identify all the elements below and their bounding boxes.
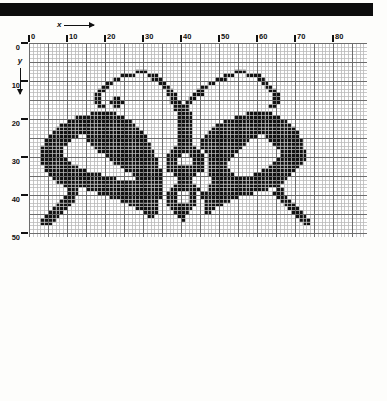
x-axis-annotation: x: [57, 19, 94, 30]
x-tick-label: 10: [69, 33, 77, 41]
y-tick-mark: [21, 118, 28, 120]
y-tick-mark: [21, 232, 28, 234]
x-tick-label: 80: [335, 33, 343, 41]
x-tick-label: 60: [259, 33, 267, 41]
y-tick-label: 30: [7, 158, 20, 166]
y-tick-mark: [21, 194, 28, 196]
y-tick-mark: [21, 80, 28, 82]
y-tick-mark: [21, 156, 28, 158]
x-tick-label: 70: [297, 33, 305, 41]
x-tick-mark: [66, 35, 68, 42]
stitch-grid-canvas: [29, 43, 367, 237]
stitch-grid: [29, 43, 367, 237]
x-tick-label: 50: [221, 33, 229, 41]
y-tick-label: 20: [7, 120, 20, 128]
x-tick-mark: [180, 35, 182, 42]
x-tick-mark: [142, 35, 144, 42]
y-axis-letter: y: [18, 57, 22, 65]
y-tick-mark: [21, 42, 28, 44]
black-header-bar: [0, 3, 373, 16]
x-tick-mark: [104, 35, 106, 42]
x-tick-mark: [256, 35, 258, 42]
x-tick-label: 40: [183, 33, 191, 41]
chart-page: x y 0102030405060708001020304050: [0, 0, 387, 401]
y-tick-label: 40: [7, 196, 20, 204]
y-tick-label: 50: [7, 234, 20, 242]
y-tick-label: 0: [7, 44, 20, 52]
x-axis-letter: x: [57, 21, 61, 29]
x-axis-arrow-icon: [64, 25, 94, 26]
x-tick-label: 30: [145, 33, 153, 41]
x-tick-label: 20: [107, 33, 115, 41]
y-tick-label: 10: [7, 82, 20, 90]
x-tick-mark: [294, 35, 296, 42]
x-tick-mark: [218, 35, 220, 42]
x-tick-mark: [28, 35, 30, 42]
x-tick-mark: [332, 35, 334, 42]
x-tick-label: 0: [31, 33, 35, 41]
